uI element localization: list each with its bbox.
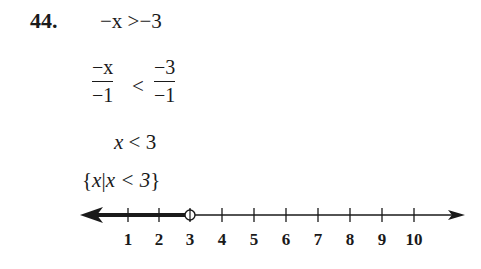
number-line — [0, 0, 481, 269]
tick-label: 2 — [155, 230, 164, 250]
tick-label: 6 — [282, 230, 291, 250]
tick-label: 4 — [218, 230, 227, 250]
tick-label: 5 — [250, 230, 259, 250]
tick-label: 1 — [124, 230, 133, 250]
tick-label: 8 — [346, 230, 355, 250]
tick-label: 9 — [378, 230, 387, 250]
tick-label: 3 — [186, 230, 195, 250]
tick-label: 7 — [314, 230, 323, 250]
tick-label: 10 — [406, 230, 423, 250]
